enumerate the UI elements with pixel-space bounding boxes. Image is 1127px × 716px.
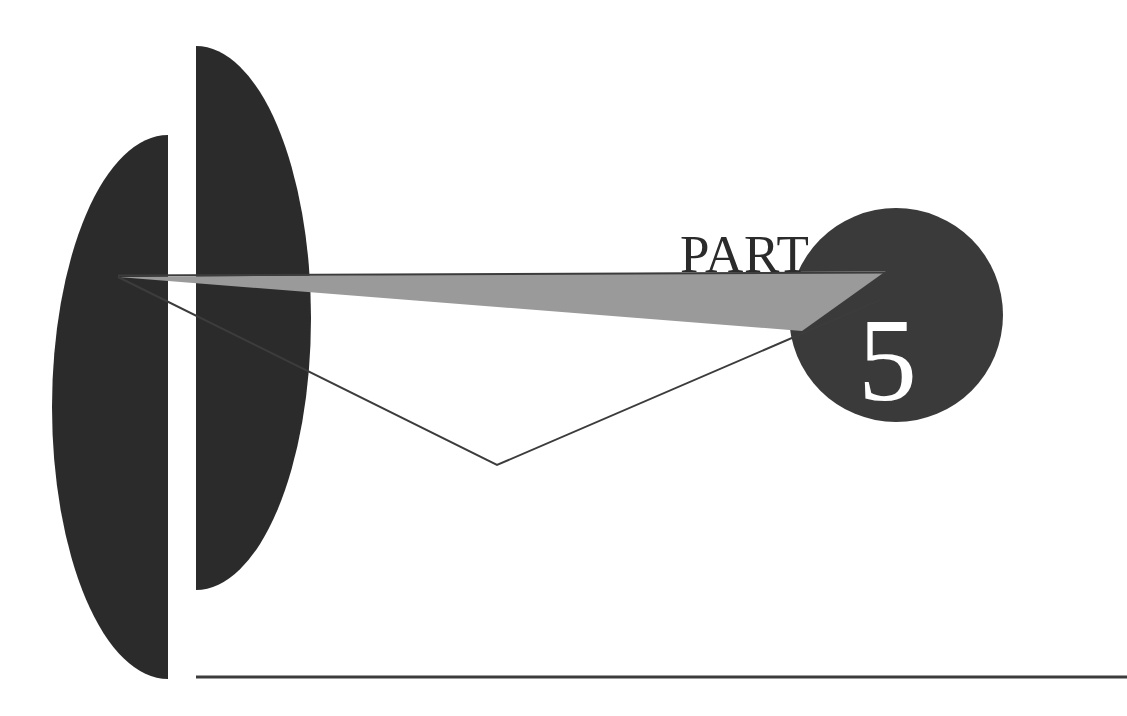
part-label: PART: [680, 225, 809, 283]
part-divider-page: PART 5: [0, 0, 1127, 716]
part-divider-artwork: PART 5: [0, 0, 1127, 716]
part-number: 5: [858, 295, 917, 426]
